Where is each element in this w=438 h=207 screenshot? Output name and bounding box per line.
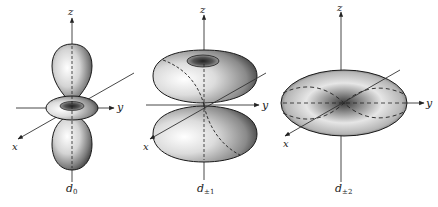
panel-d0: z y x d0 bbox=[12, 6, 134, 196]
x-axis-label: x bbox=[12, 141, 18, 152]
x-axis-label: x bbox=[283, 138, 289, 149]
panel-label-d0: d0 bbox=[66, 182, 78, 196]
z-axis-label: z bbox=[336, 2, 343, 13]
z-axis-label: z bbox=[199, 4, 206, 15]
lower-torus bbox=[153, 106, 257, 162]
z-axis-label: z bbox=[67, 6, 74, 17]
y-axis-label: y bbox=[261, 99, 269, 112]
y-axis-label: y bbox=[425, 97, 433, 110]
panel-d-pm2: z y x d±2 bbox=[281, 2, 433, 196]
panel-d-pm1: z y x d±1 bbox=[143, 4, 269, 196]
y-axis-label: y bbox=[116, 101, 124, 114]
x-axis-label: x bbox=[143, 141, 149, 152]
torus-hole bbox=[187, 55, 219, 67]
panel-label-d-pm1: d±1 bbox=[197, 182, 214, 196]
panel-label-d-pm2: d±2 bbox=[335, 182, 352, 196]
d-orbital-figure: z y x d0 z y x d±1 bbox=[0, 0, 438, 207]
